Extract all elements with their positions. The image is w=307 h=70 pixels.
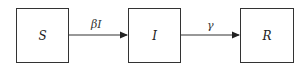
edge-label-beta-i: βI xyxy=(91,18,102,31)
node-i-label: I xyxy=(152,29,157,43)
sir-diagram: S I R βI γ xyxy=(0,0,307,70)
node-s-label: S xyxy=(38,29,46,43)
node-r: R xyxy=(240,8,294,63)
edge-label-gamma: γ xyxy=(207,19,214,32)
node-i: I xyxy=(128,8,181,63)
node-r-label: R xyxy=(262,29,271,43)
node-s: S xyxy=(16,8,69,63)
